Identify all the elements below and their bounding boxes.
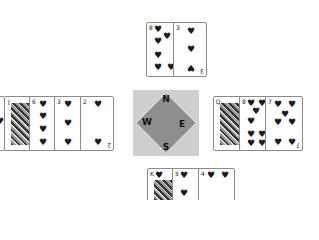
- card-rank: 2: [82, 99, 88, 105]
- jack-face-image: [11, 103, 31, 145]
- heart-icon: ♥: [252, 107, 260, 116]
- heart-icon: ♥: [187, 27, 195, 36]
- card-rank: 3: [199, 68, 205, 74]
- compass-panel: N E S W: [133, 90, 199, 156]
- east-card-3[interactable]: 7 ♥ ♥ ♥ ♥ ♥ ♥ ♥ 7: [265, 96, 303, 151]
- north-card-2[interactable]: 3 ♥ ♥ ♥ 3: [173, 22, 207, 77]
- heart-icon: ♥: [154, 25, 162, 34]
- heart-icon: ♥: [247, 117, 255, 126]
- heart-icon: ♥: [274, 118, 282, 127]
- compass-west: W: [142, 117, 152, 127]
- heart-icon: ♥: [180, 171, 188, 180]
- heart-icon: ♥: [64, 119, 72, 128]
- heart-icon: ♥: [187, 63, 195, 72]
- heart-icon: ♥: [247, 139, 255, 148]
- king-face-image: [154, 180, 174, 200]
- heart-icon: ♥: [94, 138, 102, 147]
- heart-icon: ♥: [64, 138, 72, 147]
- heart-icon: ♥: [163, 32, 171, 41]
- heart-icon: ♥: [64, 100, 72, 109]
- heart-icon: ♥: [154, 63, 162, 72]
- heart-icon: ♥: [187, 45, 195, 54]
- queen-face-image: [220, 103, 240, 145]
- heart-icon: ♥: [155, 171, 163, 180]
- heart-icon: ♥: [39, 138, 47, 147]
- heart-icon: ♥: [221, 171, 229, 180]
- compass-east: E: [177, 119, 187, 129]
- heart-icon: ♥: [274, 138, 282, 147]
- heart-icon: ♥: [39, 112, 47, 121]
- card-rank: 7: [267, 99, 273, 105]
- heart-icon: ♥: [154, 51, 162, 60]
- compass-south: S: [161, 142, 171, 152]
- south-card-3[interactable]: 4 ♥ ♥: [198, 168, 235, 200]
- heart-icon: ♥: [154, 37, 162, 46]
- heart-icon: ♥: [39, 100, 47, 109]
- compass-north: N: [161, 94, 171, 104]
- heart-icon: ♥: [274, 100, 282, 109]
- card-rank: 2: [106, 142, 112, 148]
- west-card-5[interactable]: 2 ♥ ♥ 2: [80, 96, 114, 151]
- card-rank: 6: [31, 99, 37, 105]
- heart-icon: ♥: [180, 189, 188, 198]
- card-rank: 3: [175, 25, 181, 31]
- card-rank: 7: [295, 142, 301, 148]
- card-rank: 3: [56, 99, 62, 105]
- heart-icon: ♥: [94, 100, 102, 109]
- heart-icon: ♥: [39, 125, 47, 134]
- card-rank: 4: [200, 171, 206, 177]
- heart-icon: ♥: [288, 118, 296, 127]
- heart-icon: ♥: [207, 171, 215, 180]
- heart-icon: ♥: [288, 100, 296, 109]
